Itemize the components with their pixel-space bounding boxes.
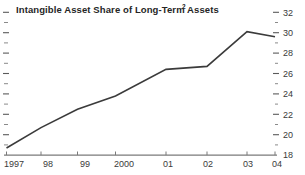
x-tick-label-01: 01 xyxy=(163,159,173,169)
x-tick-label-2000: 2000 xyxy=(114,159,134,169)
left-axis-ticks xyxy=(3,12,9,145)
chart-title-superscript: 2 xyxy=(182,3,186,10)
y-tick-label-22: 22 xyxy=(283,110,293,120)
chart-title-group: Intangible Asset Share of Long-Term Asse… xyxy=(16,3,219,15)
x-tick-label-02: 02 xyxy=(203,159,213,169)
x-axis-labels: 1997 98 99 2000 01 02 03 04 xyxy=(4,159,282,169)
y-tick-label-20: 20 xyxy=(283,130,293,140)
x-tick-label-98: 98 xyxy=(43,159,53,169)
line-chart: Intangible Asset Share of Long-Term Asse… xyxy=(0,0,305,175)
y-tick-label-32: 32 xyxy=(283,8,293,18)
data-series-line xyxy=(7,32,276,148)
y-tick-label-18: 18 xyxy=(283,150,293,160)
chart-screenshot: Intangible Asset Share of Long-Term Asse… xyxy=(0,0,305,175)
y-tick-label-30: 30 xyxy=(283,28,293,38)
y-tick-label-28: 28 xyxy=(283,48,293,58)
right-axis-ticks: 32 30 28 26 24 22 20 18 xyxy=(273,8,293,161)
y-tick-label-24: 24 xyxy=(283,89,293,99)
x-tick-label-99: 99 xyxy=(80,159,90,169)
x-tick-label-1997: 1997 xyxy=(4,159,24,169)
y-tick-label-26: 26 xyxy=(283,69,293,79)
x-tick-label-04: 04 xyxy=(272,159,282,169)
chart-title: Intangible Asset Share of Long-Term Asse… xyxy=(16,4,219,15)
x-tick-label-03: 03 xyxy=(243,159,253,169)
